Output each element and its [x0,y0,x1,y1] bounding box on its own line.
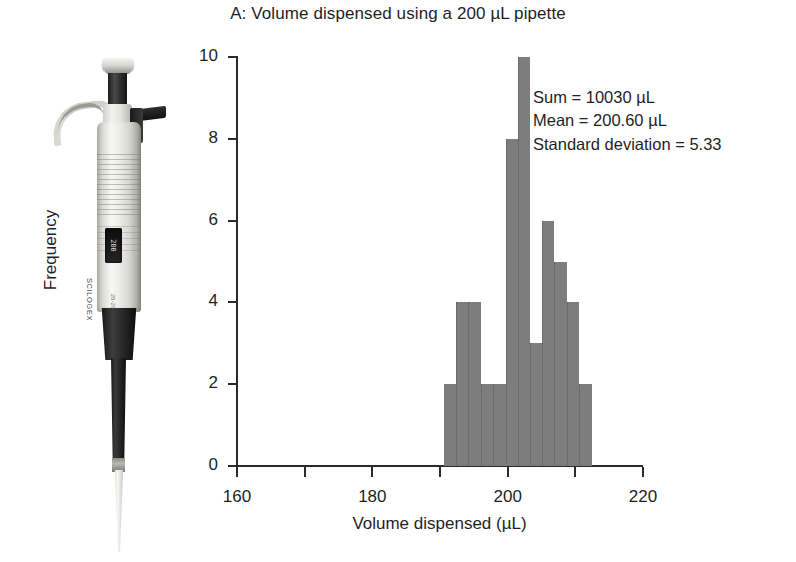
histogram-bar [444,384,456,466]
x-axis-tick [304,467,306,477]
statistics-annotation: Sum = 10030 µL Mean = 200.60 µL Standard… [533,86,793,156]
stat-mean: Mean = 200.60 µL [533,109,793,132]
stat-sum: Sum = 10030 µL [533,86,793,109]
stat-sd: Standard deviation = 5.33 [533,133,793,156]
histogram-bar [554,262,567,467]
y-axis-tick-label: 8 [178,128,218,148]
x-axis-tick [371,467,373,477]
histogram-bar [579,384,591,466]
x-axis-tick [574,467,576,477]
y-axis-tick [228,220,236,222]
x-axis-tick-label: 200 [478,487,538,507]
x-axis-tick [439,467,441,477]
histogram-bar [493,384,505,466]
y-axis-tick [228,301,236,303]
x-axis-label: Volume dispensed (µL) [236,514,643,534]
histogram-bar [481,384,494,466]
histogram-bars [0,0,796,562]
x-axis-tick [642,467,644,477]
y-axis-tick-label: 4 [178,291,218,311]
x-axis-tick [507,467,509,477]
x-axis-tick [236,467,238,477]
histogram-bar [518,57,530,466]
y-axis-tick-label: 2 [178,373,218,393]
y-axis-tick [228,465,236,467]
y-axis-tick [228,56,236,58]
y-axis-tick-label: 6 [178,210,218,230]
histogram-chart: Frequency Volume dispensed (µL) 02468101… [0,0,796,562]
x-axis-tick-label: 160 [207,487,267,507]
y-axis-tick [228,138,236,140]
x-axis-tick-label: 220 [613,487,673,507]
y-axis-tick-label: 0 [178,455,218,475]
y-axis-tick-label: 10 [178,46,218,66]
histogram-bar [530,343,542,466]
y-axis-label: Frequency [41,175,61,325]
histogram-bar [506,139,518,466]
histogram-bar [567,302,579,466]
y-axis-tick [228,383,236,385]
x-axis-tick-label: 180 [342,487,402,507]
histogram-bar [456,302,468,466]
histogram-bar [542,221,554,466]
histogram-bar [468,302,480,466]
